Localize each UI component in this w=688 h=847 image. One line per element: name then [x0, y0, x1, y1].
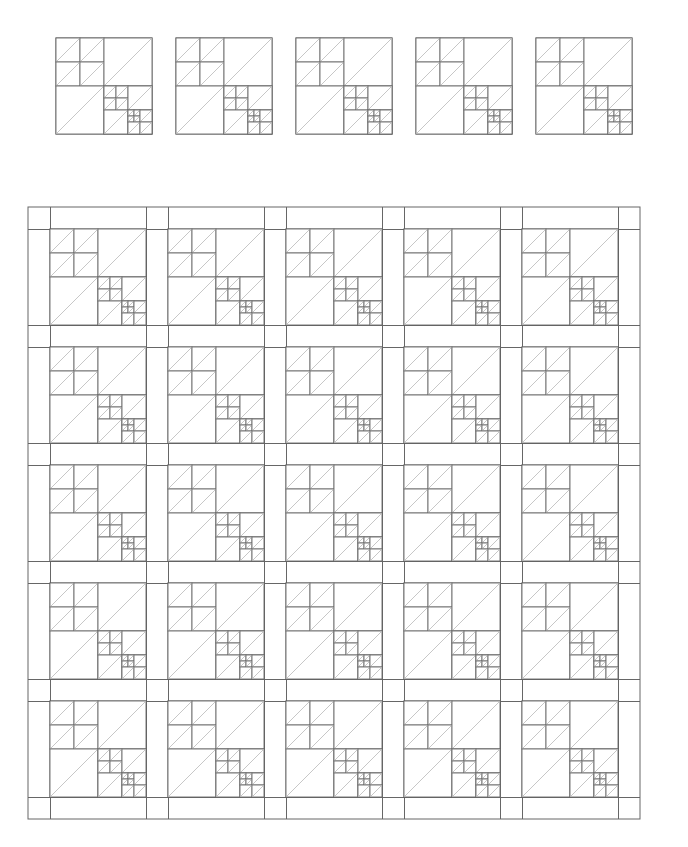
hst-unit: [570, 655, 594, 679]
hst-unit: [606, 667, 618, 679]
hst-unit: [476, 313, 488, 325]
hst-unit: [310, 229, 334, 253]
hst-unit: [606, 537, 618, 549]
quilt-subblock: [122, 773, 146, 797]
hst-unit: [216, 773, 240, 797]
hst-unit: [122, 667, 134, 679]
pinwheel-unit: [334, 513, 358, 537]
hst-unit: [600, 307, 606, 313]
quilt-subblock: [216, 277, 264, 325]
hst-unit: [122, 779, 128, 785]
hst-unit: [476, 631, 500, 655]
hst-unit: [594, 419, 600, 425]
pinwheel-unit: [98, 749, 122, 773]
hst-unit: [452, 749, 464, 761]
hst-unit: [346, 395, 358, 407]
pinwheel-unit: [570, 395, 594, 419]
pinwheel-unit: [240, 655, 252, 667]
hst-unit: [464, 407, 476, 419]
hst-unit: [128, 655, 134, 661]
hst-unit: [216, 643, 228, 655]
hst-unit: [74, 489, 98, 513]
hst-unit: [606, 773, 618, 785]
quilt-block-r5c5: [522, 701, 618, 797]
quilt-subblock: [122, 537, 146, 561]
hst-unit: [246, 661, 252, 667]
hst-unit: [134, 537, 146, 549]
hst-unit: [98, 773, 122, 797]
quilt-block-r2c1: [50, 347, 146, 443]
quilt-subblock: [476, 655, 500, 679]
hst-unit: [428, 253, 452, 277]
hst-unit: [570, 407, 582, 419]
quilt-block: [286, 229, 382, 325]
pinwheel-unit: [98, 277, 122, 301]
hst-unit: [428, 229, 452, 253]
pinwheel-unit: [50, 229, 98, 277]
hst-unit: [246, 419, 252, 425]
hst-unit: [488, 419, 500, 431]
hst-unit: [216, 347, 264, 395]
hst-unit: [50, 631, 98, 679]
hst-unit: [98, 643, 110, 655]
hst-unit: [358, 513, 382, 537]
hst-unit: [310, 465, 334, 489]
hst-unit: [134, 419, 146, 431]
hst-unit: [286, 583, 310, 607]
hst-unit: [128, 661, 134, 667]
hst-unit: [476, 785, 488, 797]
hst-unit: [192, 725, 216, 749]
quilt-subblock: [358, 537, 382, 561]
hst-unit: [240, 537, 246, 543]
hst-unit: [334, 229, 382, 277]
quilt-block: [286, 701, 382, 797]
hst-unit: [364, 419, 370, 425]
hst-unit: [74, 583, 98, 607]
hst-unit: [404, 229, 428, 253]
hst-unit: [476, 537, 482, 543]
quilt-block: [50, 465, 146, 561]
quilt-block-r2c5: [522, 347, 618, 443]
pinwheel-unit: [476, 773, 488, 785]
hst-unit: [404, 465, 428, 489]
hst-unit: [98, 655, 122, 679]
hst-unit: [452, 229, 500, 277]
hst-unit: [546, 347, 570, 371]
hst-unit: [570, 513, 582, 525]
hst-unit: [594, 631, 618, 655]
hst-unit: [110, 407, 122, 419]
hst-unit: [404, 489, 428, 513]
pinwheel-unit: [358, 301, 370, 313]
hst-unit: [252, 313, 264, 325]
hst-unit: [334, 773, 358, 797]
quilt-block: [50, 583, 146, 679]
quilt-block: [522, 347, 618, 443]
hst-unit: [252, 549, 264, 561]
quilt-block-r5c3: [286, 701, 382, 797]
pinwheel-unit: [216, 513, 240, 537]
hst-unit: [74, 347, 98, 371]
hst-unit: [358, 667, 370, 679]
pinwheel-unit: [216, 749, 240, 773]
hst-unit: [98, 289, 110, 301]
hst-unit: [428, 489, 452, 513]
hst-unit: [464, 643, 476, 655]
hst-unit: [168, 277, 216, 325]
hst-unit: [192, 489, 216, 513]
quilt-subblock: [216, 395, 264, 443]
hst-unit: [216, 229, 264, 277]
hst-unit: [582, 643, 594, 655]
hst-unit: [246, 307, 252, 313]
pinwheel-unit: [216, 277, 240, 301]
hst-unit: [110, 749, 122, 761]
hst-unit: [464, 525, 476, 537]
quilt-block-r1c2: [168, 229, 264, 325]
hst-unit: [482, 543, 488, 549]
pinwheel-unit: [570, 631, 594, 655]
hst-unit: [488, 773, 500, 785]
hst-unit: [228, 761, 240, 773]
quilt-subblock: [594, 537, 618, 561]
quilt-block-r4c1: [50, 583, 146, 679]
hst-unit: [358, 785, 370, 797]
hst-unit: [240, 425, 246, 431]
